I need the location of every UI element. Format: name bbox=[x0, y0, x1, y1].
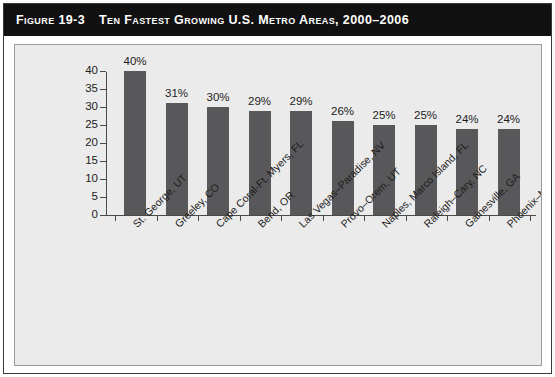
y-axis-tick-label: 0 bbox=[70, 209, 98, 221]
y-axis-tick-label: 30 bbox=[70, 101, 98, 113]
y-axis-tick bbox=[100, 125, 106, 126]
y-axis-tick bbox=[100, 71, 106, 72]
bar[interactable] bbox=[498, 129, 520, 215]
y-axis-tick bbox=[100, 143, 106, 144]
y-axis-tick bbox=[100, 161, 106, 162]
y-axis-tick-label: 15 bbox=[70, 155, 98, 167]
y-axis-tick-label: 10 bbox=[70, 173, 98, 185]
x-axis-tick bbox=[530, 216, 531, 221]
y-axis-tick bbox=[100, 179, 106, 180]
chart-canvas: 0510152025303540 40%31%30%29%29%26%25%25… bbox=[15, 45, 541, 365]
bar-value-label: 29% bbox=[281, 96, 321, 108]
x-axis-tick bbox=[281, 216, 282, 221]
y-axis-tick-label: 5 bbox=[70, 191, 98, 203]
x-axis-tick bbox=[240, 216, 241, 221]
bar-value-label: 25% bbox=[406, 110, 446, 122]
figure-number-label: Figure 19-3 bbox=[16, 13, 85, 27]
bar-value-label: 25% bbox=[364, 110, 404, 122]
x-axis-tick bbox=[406, 216, 407, 221]
x-axis-tick bbox=[447, 216, 448, 221]
x-axis-tick bbox=[323, 216, 324, 221]
bar-value-label: 40% bbox=[115, 56, 155, 68]
bar-value-label: 26% bbox=[323, 106, 363, 118]
bar-value-label: 29% bbox=[240, 96, 280, 108]
figure-title-banner: Figure 19-3 Ten Fastest Growing U.S. Met… bbox=[4, 4, 551, 36]
figure-container: Figure 19-3 Ten Fastest Growing U.S. Met… bbox=[0, 0, 555, 377]
chart-plot-panel: 0510152025303540 40%31%30%29%29%26%25%25… bbox=[14, 44, 542, 366]
y-axis-tick bbox=[100, 197, 106, 198]
x-axis-tick bbox=[157, 216, 158, 221]
bar-value-label: 24% bbox=[489, 114, 529, 126]
x-axis-tick bbox=[115, 216, 116, 221]
y-axis-tick-label: 25 bbox=[70, 119, 98, 131]
figure-caption: Ten Fastest Growing U.S. Metro Areas, 20… bbox=[99, 13, 409, 27]
y-axis-tick bbox=[100, 215, 106, 216]
bar-value-label: 30% bbox=[198, 92, 238, 104]
bar-value-label: 31% bbox=[157, 88, 197, 100]
x-axis-tick bbox=[198, 216, 199, 221]
y-axis-tick-label: 35 bbox=[70, 83, 98, 95]
y-axis-line bbox=[106, 72, 107, 216]
x-axis-tick bbox=[364, 216, 365, 221]
x-axis-tick bbox=[489, 216, 490, 221]
y-axis-tick bbox=[100, 89, 106, 90]
y-axis-tick-label: 40 bbox=[70, 65, 98, 77]
bar-value-label: 24% bbox=[447, 114, 487, 126]
y-axis-tick-label: 20 bbox=[70, 137, 98, 149]
y-axis-tick bbox=[100, 107, 106, 108]
bar[interactable] bbox=[124, 71, 146, 215]
